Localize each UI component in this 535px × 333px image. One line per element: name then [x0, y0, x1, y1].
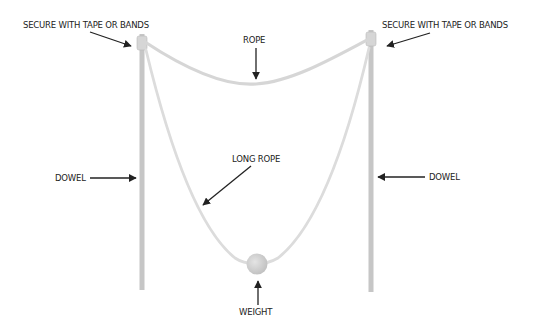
label-rope: ROPE	[243, 35, 265, 45]
arrow-secure-right	[387, 33, 430, 46]
label-secure-right: SECURE WITH TAPE OR BANDS	[382, 20, 508, 30]
pendulum-diagram	[0, 0, 535, 333]
label-dowel-left: DOWEL	[55, 173, 86, 183]
label-dowel-right: DOWEL	[429, 172, 460, 182]
arrow-long-rope	[203, 166, 251, 205]
weight-ball	[247, 254, 268, 275]
label-long-rope: LONG ROPE	[232, 154, 280, 164]
top-rope	[145, 39, 369, 84]
label-weight: WEIGHT	[239, 307, 272, 317]
label-secure-left: SECURE WITH TAPE OR BANDS	[23, 20, 149, 30]
arrow-secure-left	[90, 32, 131, 46]
left-dowel	[140, 34, 145, 290]
right-dowel	[369, 30, 374, 292]
